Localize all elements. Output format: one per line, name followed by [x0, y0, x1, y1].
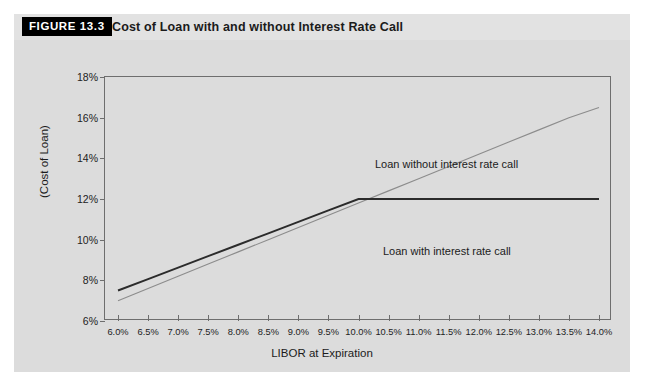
series-line-loan-with-call: [118, 199, 599, 291]
x-axis-tick-label: 12.0%: [466, 327, 492, 337]
x-axis-tick-label: 11.0%: [406, 327, 432, 337]
x-axis-tick-mark: [539, 315, 540, 321]
x-axis-tick-mark: [509, 315, 510, 321]
y-axis-tick-mark: [100, 280, 105, 281]
x-axis-tick-mark: [449, 315, 450, 321]
y-axis-tick-mark: [100, 199, 105, 200]
x-axis-tick-label: 14.0%: [586, 327, 612, 337]
x-axis-tick-label: 10.0%: [345, 327, 371, 337]
x-axis-tick-mark: [208, 315, 209, 321]
x-axis-tick-label: 13.5%: [556, 327, 582, 337]
y-axis-tick-mark: [100, 118, 105, 119]
y-axis-tick-label: 6%: [83, 315, 98, 327]
y-axis-tick-mark: [100, 77, 105, 78]
x-axis-tick-mark: [599, 315, 600, 321]
series-canvas: [105, 77, 612, 321]
x-axis-label: LIBOR at Expiration: [14, 347, 630, 359]
plot-area: 6%8%10%12%14%16%18%6.0%6.5%7.0%7.5%8.0%8…: [104, 76, 611, 320]
series-line-loan-without-call: [118, 108, 599, 301]
figure-container: FIGURE 13.3 Cost of Loan with and withou…: [0, 0, 658, 388]
annotation-loan-with-call: Loan with interest rate call: [383, 245, 511, 257]
x-axis-tick-label: 8.0%: [228, 327, 249, 337]
x-axis-tick-mark: [328, 315, 329, 321]
x-axis-tick-mark: [298, 315, 299, 321]
x-axis-tick-label: 10.5%: [375, 327, 401, 337]
y-axis-tick-label: 14%: [77, 152, 98, 164]
annotation-loan-without-call: Loan without interest rate call: [375, 158, 518, 170]
figure-number-tag: FIGURE 13.3: [22, 17, 112, 36]
x-axis-tick-label: 6.5%: [137, 327, 158, 337]
y-axis-tick-mark: [100, 321, 105, 322]
y-axis-tick-label: 16%: [77, 112, 98, 124]
x-axis-tick-mark: [479, 315, 480, 321]
x-axis-tick-label: 8.5%: [258, 327, 279, 337]
x-axis-tick-mark: [118, 315, 119, 321]
chart-panel: (Cost of Loan) LIBOR at Expiration 6%8%1…: [14, 40, 630, 372]
y-axis-tick-label: 10%: [77, 234, 98, 246]
x-axis-tick-mark: [178, 315, 179, 321]
plot-inner: 6%8%10%12%14%16%18%6.0%6.5%7.0%7.5%8.0%8…: [105, 77, 610, 319]
figure-title: Cost of Loan with and without Interest R…: [112, 18, 403, 36]
x-axis-tick-mark: [148, 315, 149, 321]
x-axis-tick-label: 7.0%: [168, 327, 189, 337]
x-axis-tick-label: 12.5%: [496, 327, 522, 337]
x-axis-tick-mark: [359, 315, 360, 321]
x-axis-tick-mark: [238, 315, 239, 321]
x-axis-tick-mark: [268, 315, 269, 321]
x-axis-tick-label: 7.5%: [198, 327, 219, 337]
x-axis-tick-label: 9.5%: [318, 327, 339, 337]
y-axis-tick-label: 8%: [83, 274, 98, 286]
x-axis-tick-label: 9.0%: [288, 327, 309, 337]
y-axis-label: (Cost of Loan): [38, 125, 50, 198]
x-axis-tick-mark: [389, 315, 390, 321]
x-axis-tick-mark: [419, 315, 420, 321]
x-axis-tick-label: 13.0%: [526, 327, 552, 337]
x-axis-tick-mark: [569, 315, 570, 321]
y-axis-tick-mark: [100, 158, 105, 159]
y-axis-tick-label: 12%: [77, 193, 98, 205]
x-axis-tick-label: 6.0%: [107, 327, 128, 337]
y-axis-tick-label: 18%: [77, 71, 98, 83]
x-axis-tick-label: 11.5%: [436, 327, 462, 337]
y-axis-tick-mark: [100, 240, 105, 241]
